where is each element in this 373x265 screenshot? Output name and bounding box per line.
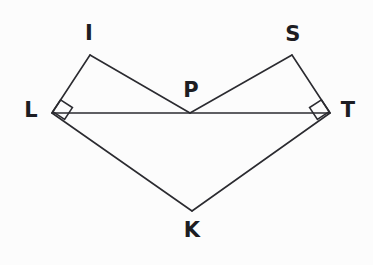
segment-K-T [192,113,330,211]
geometry-figure: I S P L T K [0,0,373,265]
vertex-label-P: P [183,80,199,101]
vertex-label-S: S [285,24,300,45]
vertex-label-I: I [85,23,93,44]
segment-L-K [52,113,192,211]
segment-P-S [190,55,292,113]
vertex-label-L: L [24,100,38,121]
vertex-label-K: K [184,220,200,241]
segment-I-P [90,55,190,113]
vertex-label-T: T [341,100,356,121]
